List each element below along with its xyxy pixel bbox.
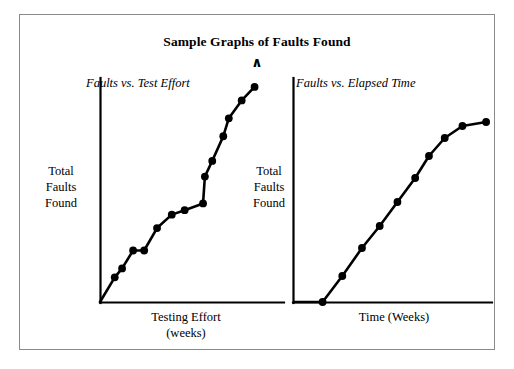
right-chart-markers <box>319 118 490 306</box>
data-point <box>441 134 449 142</box>
data-point <box>238 97 246 105</box>
data-point <box>482 118 490 126</box>
data-point <box>358 244 366 252</box>
data-point <box>181 206 189 214</box>
data-point <box>319 298 327 306</box>
right-chart-series <box>295 118 490 306</box>
data-point <box>201 173 209 181</box>
right-chart-line <box>295 122 486 302</box>
data-point <box>459 122 467 130</box>
data-point <box>376 222 384 230</box>
data-point <box>129 247 137 255</box>
data-point <box>394 198 402 206</box>
data-point <box>153 224 161 232</box>
data-point <box>425 152 433 160</box>
data-point <box>251 83 259 91</box>
data-point <box>219 132 227 140</box>
figure-canvas: Sample Graphs of Faults Found ∧ Faults v… <box>0 0 514 369</box>
left-chart-markers <box>111 83 259 281</box>
data-point <box>199 200 207 208</box>
data-point <box>411 174 419 182</box>
data-point <box>118 265 126 273</box>
data-point <box>225 114 233 122</box>
data-point <box>140 247 148 255</box>
data-point <box>111 273 119 281</box>
charts-svg <box>0 0 514 369</box>
data-point <box>208 157 216 165</box>
data-point <box>338 272 346 280</box>
data-point <box>168 211 176 219</box>
left-chart-series <box>100 83 258 302</box>
